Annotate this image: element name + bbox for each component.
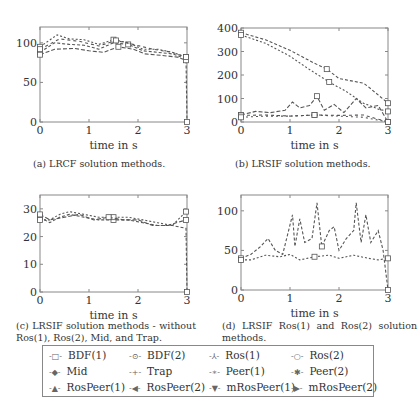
asterisk-icon: -∗- <box>209 368 220 377</box>
x-tick-label: 2 <box>135 294 142 307</box>
series-marker <box>386 288 391 293</box>
y-tick-label: 200 <box>217 69 238 82</box>
y-tick-label: 0 <box>30 116 37 129</box>
y-tick-label: 300 <box>217 46 238 59</box>
x-tick-label: 0 <box>37 124 44 137</box>
x-tick-label: 1 <box>287 292 294 305</box>
diamond-icon: -◆- <box>49 368 61 377</box>
x-tick-label: 1 <box>86 124 93 137</box>
x-tick-label: 3 <box>184 124 191 137</box>
series-marker <box>314 94 319 99</box>
x-tick-label: 3 <box>184 294 191 307</box>
legend-label: RosPeer(2) <box>147 381 206 393</box>
triangle-right-icon: -▶- <box>291 384 303 393</box>
series-marker <box>386 256 391 261</box>
series-marker <box>113 38 118 43</box>
chart-d: 0123050100time in s <box>210 170 420 330</box>
legend-label: Peer(2) <box>309 365 348 377</box>
legend-label: Peer(1) <box>226 365 265 377</box>
x-tick-label: 2 <box>135 124 142 137</box>
legend-entry: -▲-RosPeer(1) <box>49 381 125 393</box>
series-marker <box>38 52 43 57</box>
series-marker <box>38 212 43 217</box>
series-marker <box>239 257 244 262</box>
caption-c: (c) LRSIF solution methods - without Ros… <box>16 320 196 344</box>
panel-a: 0123050100time in s (a) LRCF solution me… <box>0 0 210 175</box>
chart-c: 01230102030time in s <box>0 170 210 330</box>
series-marker <box>386 101 391 106</box>
legend-entry: -▼-mRosPeer(1) <box>209 381 295 393</box>
chart-b: 01230100200300400time in s <box>210 0 420 175</box>
legend-label: mRosPeer(1) <box>227 381 296 393</box>
series-marker <box>239 33 244 38</box>
series-marker <box>184 217 189 222</box>
legend-entry: -◆-Mid <box>49 365 87 377</box>
series-marker <box>386 109 391 114</box>
plus-icon: -+- <box>129 368 141 377</box>
series-marker <box>312 254 317 259</box>
series-marker <box>312 112 317 117</box>
series-marker <box>239 115 244 120</box>
y-tick-label: 100 <box>217 205 238 218</box>
y-tick-label: 400 <box>217 22 238 35</box>
x-tick-label: 1 <box>86 294 93 307</box>
caption-a: (a) LRCF solution methods. <box>33 158 193 170</box>
series-line <box>241 35 388 111</box>
series-marker <box>106 215 111 220</box>
y-tick-label: 50 <box>224 244 238 257</box>
series-marker <box>38 47 43 52</box>
series-marker <box>386 120 391 125</box>
panel-c: 01230102030time in s (c) LRSIF solution … <box>0 170 210 345</box>
x-axis-label: time in s <box>290 139 338 152</box>
y-tick-label: 30 <box>23 203 37 216</box>
legend-label: mRosPeer(2) <box>309 381 378 393</box>
series-line <box>241 33 388 104</box>
plot-frame <box>241 195 388 290</box>
legend-entry: -○-Ros(2) <box>291 349 344 361</box>
tri-star-icon: -⅄- <box>209 352 219 361</box>
legend-entry: -⅄-Ros(1) <box>209 349 260 361</box>
y-tick-label: 50 <box>23 76 37 89</box>
y-tick-label: 100 <box>217 93 238 106</box>
y-tick-label: 0 <box>231 284 238 297</box>
panel-b: 01230100200300400time in s (b) LRSIF sol… <box>210 0 420 175</box>
triangle-left-icon: -◀- <box>129 384 141 393</box>
x-tick-label: 0 <box>238 292 245 305</box>
y-tick-label: 0 <box>30 286 37 299</box>
legend-label: Ros(1) <box>225 349 260 361</box>
x-tick-label: 3 <box>385 124 392 137</box>
legend-entry: -+-Trap <box>129 365 172 377</box>
y-tick-label: 100 <box>16 37 37 50</box>
square-icon: -□- <box>49 352 62 361</box>
x-tick-label: 3 <box>385 292 392 305</box>
legend-entry: -□-BDF(1) <box>49 349 106 361</box>
series-marker <box>185 120 190 125</box>
x-axis-label: time in s <box>89 139 137 152</box>
series-marker <box>38 217 43 222</box>
x-axis-label: time in s <box>290 307 338 320</box>
legend-entry: -⊙-BDF(2) <box>129 349 185 361</box>
chart-a: 0123050100time in s <box>0 0 210 175</box>
series-marker <box>327 80 332 85</box>
star-icon: -✱- <box>291 368 303 377</box>
legend-label: RosPeer(1) <box>67 381 126 393</box>
x-tick-label: 0 <box>37 294 44 307</box>
x-tick-label: 1 <box>287 124 294 137</box>
legend-entry: -✱-Peer(2) <box>291 365 348 377</box>
legend-label: Mid <box>67 365 88 377</box>
series-line <box>241 203 388 290</box>
legend-label: BDF(1) <box>68 349 106 361</box>
triangle-down-icon: -▼- <box>209 384 221 393</box>
x-tick-label: 2 <box>336 292 343 305</box>
y-tick-label: 0 <box>231 116 238 129</box>
series-line <box>40 43 187 122</box>
x-tick-label: 0 <box>238 124 245 137</box>
circle-open-icon: -○- <box>291 352 303 361</box>
plot-frame <box>40 195 187 292</box>
series-marker <box>319 244 324 249</box>
caption-b: (b) LRSIF solution methods. <box>235 158 405 170</box>
legend-label: Trap <box>147 365 172 377</box>
circle-dot-icon: -⊙- <box>129 352 141 361</box>
legend-label: Ros(2) <box>309 349 344 361</box>
legend-entry: -∗-Peer(1) <box>209 365 265 377</box>
